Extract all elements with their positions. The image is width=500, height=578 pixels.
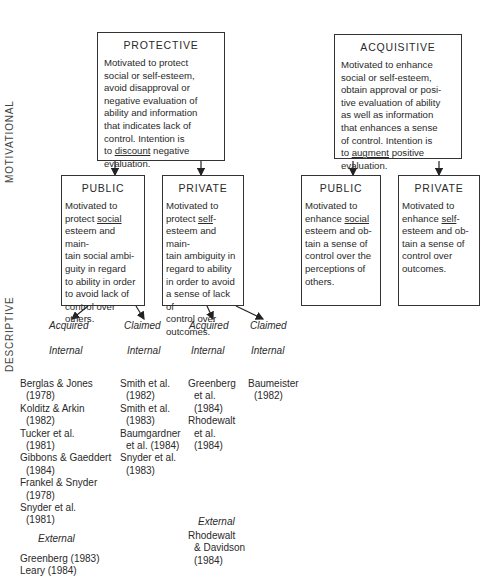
reference: Tucker et al.(1981) bbox=[20, 428, 111, 453]
ref-year: (1982) bbox=[20, 415, 111, 427]
public-acquired-external-refs: Greenberg (1983) Leary (1984) bbox=[20, 553, 100, 578]
ref-year: (1984) bbox=[20, 465, 111, 477]
reference: Greenberget al. bbox=[188, 378, 236, 403]
protective-public-text-2: esteem and main- tain social ambi- guity… bbox=[65, 225, 135, 324]
ref-year: (1981) bbox=[20, 440, 111, 452]
protective-public-title: PUBLIC bbox=[62, 182, 144, 194]
protective-private-emphasis: self bbox=[198, 213, 213, 224]
reference: Smith et al.(1982) bbox=[120, 378, 181, 403]
acquisitive-emphasis: augment bbox=[352, 147, 389, 158]
protective-text-1: Motivated to protect social or self-este… bbox=[104, 57, 197, 156]
ref-year: (1983) bbox=[120, 465, 181, 477]
protective-public-box: PUBLIC Motivated to protect social estee… bbox=[61, 175, 145, 306]
ref-year: (1978) bbox=[20, 390, 111, 402]
reference: (1984) bbox=[188, 403, 236, 415]
ref-name: Smith et al. bbox=[120, 403, 170, 414]
ref-year: et al. bbox=[188, 428, 236, 440]
ref-name: Frankel & Snyder bbox=[20, 477, 97, 488]
acquisitive-public-box: PUBLIC Motivated to enhance social estee… bbox=[301, 175, 381, 306]
ref-name: Snyder et al. bbox=[120, 452, 176, 463]
protective-private-box: PRIVATE Motivated to protect self- estee… bbox=[162, 175, 244, 306]
ref-year: (1984) bbox=[188, 440, 236, 452]
reference: Frankel & Snyder(1978) bbox=[20, 477, 111, 502]
private-acquired-external-label: External bbox=[198, 516, 235, 527]
ref-name: Baumgardner bbox=[120, 428, 181, 439]
acquisitive-public-title: PUBLIC bbox=[302, 182, 380, 194]
public-claimed-label: Claimed bbox=[124, 320, 161, 331]
private-acquired-label: Acquired bbox=[189, 320, 228, 331]
private-acquired-internal-label: Internal bbox=[191, 345, 224, 356]
protective-emphasis: discount bbox=[115, 145, 151, 156]
public-claimed-internal-label: Internal bbox=[127, 345, 160, 356]
acquisitive-box: ACQUISITIVE Motivated to enhance social … bbox=[334, 34, 462, 159]
descriptive-axis-label: DESCRIPTIVE bbox=[4, 297, 15, 372]
reference: Rhodewalt& Davidson bbox=[188, 530, 245, 555]
ref-name: Berglas & Jones bbox=[20, 378, 93, 389]
reference: Snyder et al.(1981) bbox=[20, 502, 111, 527]
public-acquired-internal-refs: Berglas & Jones(1978) Kolditz & Arkin(19… bbox=[20, 378, 111, 527]
acquisitive-description: Motivated to enhance social or self-este… bbox=[335, 59, 461, 172]
public-claimed-internal-refs: Smith et al.(1982) Smith et al.(1983) Ba… bbox=[120, 378, 181, 477]
reference: Snyder et al.(1983) bbox=[120, 452, 181, 477]
acquisitive-title: ACQUISITIVE bbox=[335, 41, 461, 53]
ref-name: Baumeister bbox=[248, 378, 299, 389]
ref-year: (1983) bbox=[120, 415, 181, 427]
reference: Smith et al.(1983) bbox=[120, 403, 181, 428]
public-acquired-external-label: External bbox=[38, 533, 75, 544]
ref-name: Rhodewalt bbox=[188, 415, 235, 426]
protective-private-description: Motivated to protect self- esteem and ma… bbox=[163, 200, 243, 339]
protective-box: PROTECTIVE Motivated to protect social o… bbox=[97, 32, 225, 161]
ref-year: (1984) bbox=[188, 403, 236, 415]
acquisitive-private-emphasis: self bbox=[441, 213, 456, 224]
public-acquired-label: Acquired bbox=[49, 320, 88, 331]
acquisitive-private-box: PRIVATE Motivated to enhance self- estee… bbox=[398, 175, 480, 306]
protective-private-text-2: - esteem and main- tain ambiguity in reg… bbox=[166, 213, 235, 337]
acquisitive-public-emphasis: social bbox=[344, 213, 369, 224]
protective-private-title: PRIVATE bbox=[163, 182, 243, 194]
acquisitive-private-description: Motivated to enhance self- esteem and ob… bbox=[399, 200, 479, 276]
ref-year: et al. (1984) bbox=[120, 440, 181, 452]
acquisitive-public-description: Motivated to enhance social esteem and o… bbox=[302, 200, 380, 288]
ref-name: Kolditz & Arkin bbox=[20, 403, 84, 414]
ref-year: (1981) bbox=[20, 514, 111, 526]
ref-year: (1984) bbox=[188, 555, 245, 567]
reference: Kolditz & Arkin(1982) bbox=[20, 403, 111, 428]
public-acquired-internal-label: Internal bbox=[49, 345, 82, 356]
ref-year: (1982) bbox=[248, 390, 299, 402]
reference: Baumgardneret al. (1984) bbox=[120, 428, 181, 453]
motivational-axis-label: MOTIVATIONAL bbox=[4, 100, 15, 183]
private-claimed-internal-label: Internal bbox=[251, 345, 284, 356]
reference: Gibbons & Gaeddert(1984) bbox=[20, 452, 111, 477]
protective-public-emphasis: social bbox=[97, 213, 122, 224]
protective-description: Motivated to protect social or self-este… bbox=[98, 57, 224, 170]
reference: Leary (1984) bbox=[20, 565, 100, 577]
ref-year: & Davidson bbox=[188, 542, 245, 554]
reference: Rhodewaltet al. bbox=[188, 415, 236, 440]
ref-year: (1978) bbox=[20, 490, 111, 502]
reference: (1984) bbox=[188, 555, 245, 567]
ref-name: Tucker et al. bbox=[20, 428, 75, 439]
ref-year: (1982) bbox=[120, 390, 181, 402]
acquisitive-public-text-2: esteem and ob- tain a sense of control o… bbox=[305, 225, 372, 286]
ref-name: Rhodewalt bbox=[188, 530, 235, 541]
ref-name: Snyder et al. bbox=[20, 502, 76, 513]
reference: Baumeister(1982) bbox=[248, 378, 299, 403]
private-claimed-internal-refs: Baumeister(1982) bbox=[248, 378, 299, 403]
ref-name: Gibbons & Gaeddert bbox=[20, 452, 111, 463]
protective-title: PROTECTIVE bbox=[98, 39, 224, 51]
reference: Berglas & Jones(1978) bbox=[20, 378, 111, 403]
ref-year: et al. bbox=[188, 390, 236, 402]
reference: Greenberg (1983) bbox=[20, 553, 100, 565]
acquisitive-private-title: PRIVATE bbox=[399, 182, 479, 194]
private-acquired-internal-refs: Greenberget al. (1984) Rhodewaltet al. (… bbox=[188, 378, 236, 452]
acquisitive-text-1: Motivated to enhance social or self-este… bbox=[341, 59, 441, 158]
ref-name: Smith et al. bbox=[120, 378, 170, 389]
reference: (1984) bbox=[188, 440, 236, 452]
private-acquired-external-refs: Rhodewalt& Davidson (1984) bbox=[188, 530, 245, 567]
protective-public-description: Motivated to protect social esteem and m… bbox=[62, 200, 144, 326]
private-claimed-label: Claimed bbox=[250, 320, 287, 331]
ref-name: Greenberg bbox=[188, 378, 236, 389]
